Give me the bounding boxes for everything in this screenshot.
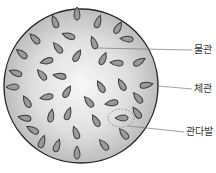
label-phloem: 체관: [194, 83, 212, 95]
phloem-leader-line: [158, 86, 192, 89]
label-xylem: 물관: [194, 44, 212, 56]
label-vascular-bundle: 관다발: [186, 126, 213, 138]
stem-cross-section-diagram: [0, 0, 216, 173]
stem-outline: [4, 9, 158, 163]
